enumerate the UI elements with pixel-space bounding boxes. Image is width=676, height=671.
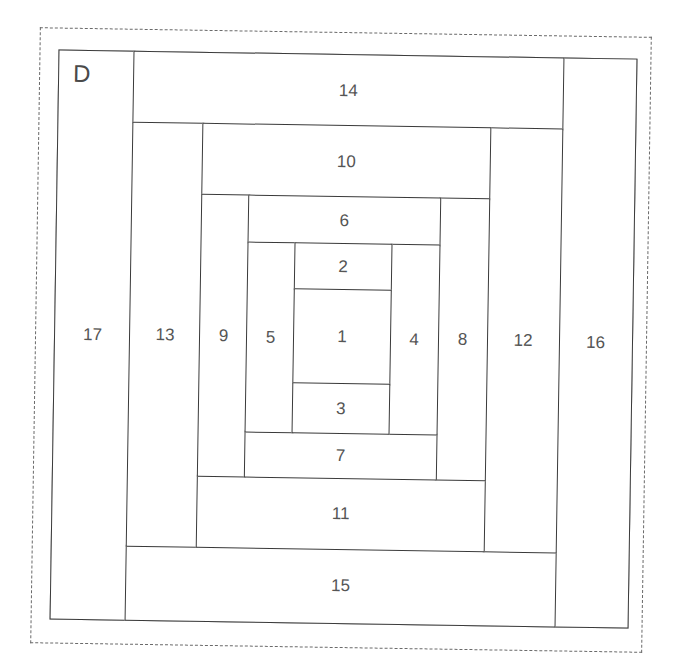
piece-3-label: 3 [336,398,346,418]
piece-12: 12 [483,127,564,553]
piece-15: 15 [125,545,557,628]
piece-9-label: 9 [219,326,229,346]
piece-17: 17 [50,50,136,621]
piece-8: 8 [435,198,490,482]
piece-7-label: 7 [336,445,346,465]
piece-3: 3 [292,382,391,435]
piece-16-label: 16 [586,333,605,353]
piece-6-label: 6 [339,210,349,230]
piece-12-label: 12 [513,330,532,350]
piece-16: 16 [554,57,638,628]
piece-10: 10 [201,123,491,201]
piece-7: 7 [244,431,438,481]
piece-13-label: 13 [155,325,174,345]
piece-13: 13 [126,122,205,548]
log-cabin-block-diagram: 17 16 14 15 13 12 10 11 9 8 6 7 5 4 2 1 … [0,0,676,671]
piece-17-label: 17 [83,325,102,345]
piece-5: 5 [245,242,297,434]
piece-10-label: 10 [337,151,356,171]
block-letter-label: D [73,60,91,88]
piece-11: 11 [196,475,486,553]
piece-2-label: 2 [338,257,348,277]
piece-5-label: 5 [266,327,276,347]
piece-1-label: 1 [337,327,347,347]
piece-8-label: 8 [458,329,468,349]
piece-14-label: 14 [339,80,358,100]
piece-1: 1 [292,288,391,386]
piece-4: 4 [388,244,441,436]
piece-4-label: 4 [409,330,419,350]
piece-15-label: 15 [331,576,350,596]
piece-6: 6 [248,195,442,247]
piece-14: 14 [132,51,564,131]
piece-2: 2 [294,242,393,292]
piece-11-label: 11 [332,503,350,523]
piece-9: 9 [197,194,250,478]
